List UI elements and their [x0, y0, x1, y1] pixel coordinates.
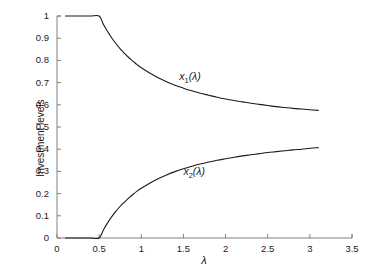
axis-spines	[57, 16, 352, 238]
series-annotation-x2-arg: (λ)	[193, 165, 205, 177]
chart-figure: Investment levels λ 00.10.20.30.40.50.60…	[0, 0, 366, 275]
axis-tick-marks	[57, 16, 352, 238]
series-line-x2	[65, 148, 318, 239]
series-annotation-x1: x1(λ)	[179, 70, 201, 85]
series-line-x1	[65, 15, 318, 110]
plot-canvas	[0, 0, 366, 275]
series-annotation-x1-arg: (λ)	[189, 70, 201, 82]
series-annotation-x2: x2(λ)	[183, 165, 205, 180]
